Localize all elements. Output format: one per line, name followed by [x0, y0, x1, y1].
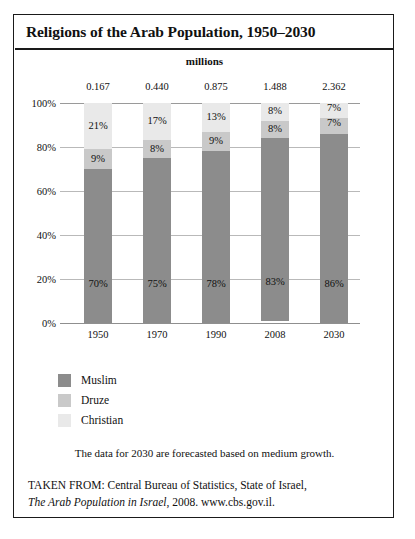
legend-label-muslim: Muslim	[81, 370, 117, 390]
forecast-note: The data for 2030 are forecasted based o…	[14, 447, 395, 459]
bar-segment-label: 70%	[76, 278, 120, 289]
legend-swatch-muslim	[58, 374, 71, 387]
x-axis-tick-label: 2030	[306, 329, 362, 340]
legend-item-druze: Druze	[58, 390, 298, 410]
source-attribution: TAKEN FROM: Central Bureau of Statistics…	[28, 477, 384, 511]
bar-segment-christian[interactable]: 7%	[320, 103, 348, 118]
bar-segment-druze[interactable]: 8%	[261, 121, 289, 139]
stacked-bar[interactable]: 17%8%75%	[143, 103, 171, 323]
legend-swatch-druze	[58, 394, 71, 407]
bar-segment-christian[interactable]: 13%	[202, 103, 230, 132]
bar-segment-christian[interactable]: 17%	[143, 103, 171, 140]
bar-segment-label: 75%	[135, 278, 179, 289]
y-axis-tick-label: 0%	[14, 318, 56, 329]
bar-column[interactable]: 13%9%78%	[188, 103, 244, 323]
chart-plot-area: 0%20%40%60%80%100%0.16721%9%70%19500.440…	[14, 15, 395, 519]
bar-segment-label: 17%	[135, 115, 179, 126]
stacked-bar[interactable]: 21%9%70%	[84, 103, 112, 323]
bar-segment-muslim[interactable]: 70%	[84, 169, 112, 323]
bar-segment-label: 8%	[135, 143, 179, 154]
source-publication-title: The Arab Population in Israel	[28, 496, 166, 508]
bar-segment-label: 8%	[253, 123, 297, 134]
bar-segment-label: 9%	[194, 135, 238, 146]
x-axis-tick-label: 1970	[129, 329, 185, 340]
bar-segment-label: 83%	[253, 276, 297, 287]
bar-segment-muslim[interactable]: 83%	[261, 138, 289, 321]
legend-item-muslim: Muslim	[58, 370, 298, 390]
bar-segment-christian[interactable]: 8%	[261, 103, 289, 121]
source-line-1: TAKEN FROM: Central Bureau of Statistics…	[28, 477, 384, 494]
y-axis-tick-label: 60%	[14, 186, 56, 197]
bar-segment-muslim[interactable]: 86%	[320, 134, 348, 323]
bar-column[interactable]: 8%8%83%	[247, 103, 303, 323]
bar-segment-label: 78%	[194, 278, 238, 289]
bar-segment-druze[interactable]: 9%	[202, 132, 230, 152]
y-axis-tick-label: 100%	[14, 98, 56, 109]
bar-segment-label: 7%	[312, 102, 356, 113]
figure-frame: Religions of the Arab Population, 1950–2…	[13, 14, 394, 518]
bar-segment-label: 86%	[312, 278, 356, 289]
x-axis-tick-label: 2008	[247, 329, 303, 340]
stacked-bar[interactable]: 8%8%83%	[261, 103, 289, 323]
bar-segment-label: 9%	[76, 153, 120, 164]
legend-item-christian: Christian	[58, 410, 298, 430]
bar-segment-muslim[interactable]: 75%	[143, 158, 171, 323]
bar-total-label: 2.362	[306, 81, 362, 92]
y-axis-tick-label: 40%	[14, 230, 56, 241]
bar-column[interactable]: 17%8%75%	[129, 103, 185, 323]
legend-label-druze: Druze	[81, 390, 109, 410]
stacked-bar[interactable]: 13%9%78%	[202, 103, 230, 323]
x-axis-tick-label: 1990	[188, 329, 244, 340]
bar-segment-label: 13%	[194, 111, 238, 122]
source-line-2: The Arab Population in Israel, 2008. www…	[28, 494, 384, 511]
bar-total-label: 0.440	[129, 81, 185, 92]
x-axis-tick-label: 1950	[70, 329, 126, 340]
bar-segment-druze[interactable]: 8%	[143, 140, 171, 158]
bar-total-label: 1.488	[247, 81, 303, 92]
chart-legend: Muslim Druze Christian	[58, 370, 298, 430]
legend-label-christian: Christian	[81, 410, 123, 430]
bar-segment-muslim[interactable]: 78%	[202, 151, 230, 323]
gridline-0pct	[60, 323, 360, 324]
bar-segment-christian[interactable]: 21%	[84, 103, 112, 149]
bar-segment-label: 8%	[253, 105, 297, 116]
y-axis-tick-label: 20%	[14, 274, 56, 285]
legend-swatch-christian	[58, 414, 71, 427]
y-axis-tick-label: 80%	[14, 142, 56, 153]
bar-segment-druze[interactable]: 9%	[84, 149, 112, 169]
bar-segment-label: 7%	[312, 117, 356, 128]
bar-total-label: 0.875	[188, 81, 244, 92]
source-publication-rest: , 2008. www.cbs.gov.il.	[166, 496, 274, 508]
stacked-bar[interactable]: 7%7%86%	[320, 103, 348, 323]
bar-column[interactable]: 21%9%70%	[70, 103, 126, 323]
bar-total-label: 0.167	[70, 81, 126, 92]
bar-column[interactable]: 7%7%86%	[306, 103, 362, 323]
bar-segment-druze[interactable]: 7%	[320, 118, 348, 133]
bar-segment-label: 21%	[76, 120, 120, 131]
